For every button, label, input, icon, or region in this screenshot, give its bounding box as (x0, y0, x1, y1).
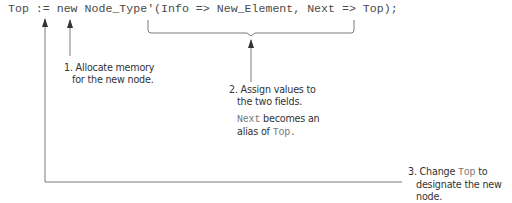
step3-label: 3. Change Top to designate the new node. (408, 166, 502, 203)
step2-line1: 2. Assign values to (229, 84, 319, 96)
step2-label: 2. Assign values to the two fields. Next… (229, 84, 319, 139)
step2-note-line1: Next becomes an (229, 113, 319, 126)
step3-line1-post: to (475, 166, 487, 177)
aggregate-brace (148, 20, 354, 36)
step3-line3: node. (408, 191, 502, 203)
top-code-term: Top. (273, 127, 296, 138)
step1-label: 1. Allocate memory for the new node. (64, 62, 154, 86)
step2-note-text2: alias of (237, 126, 273, 137)
top-code-term-step3: Top (458, 167, 475, 178)
step2-assign-arrow (248, 39, 254, 82)
step2-line2: the two fields. (229, 96, 319, 108)
step3-line2: designate the new (408, 179, 502, 191)
step3-line1-pre: 3. Change (408, 166, 458, 177)
step1-line1: 1. Allocate memory (64, 62, 154, 74)
next-code-term: Next (237, 114, 260, 125)
step1-allocate-arrow (67, 19, 73, 56)
step3-line1: 3. Change Top to (408, 166, 502, 179)
step2-note-text1: becomes an (260, 113, 319, 124)
step2-note-line2: alias of Top. (229, 126, 319, 139)
step3-connector-arrow (42, 18, 402, 182)
step1-line2: for the new node. (64, 74, 154, 86)
